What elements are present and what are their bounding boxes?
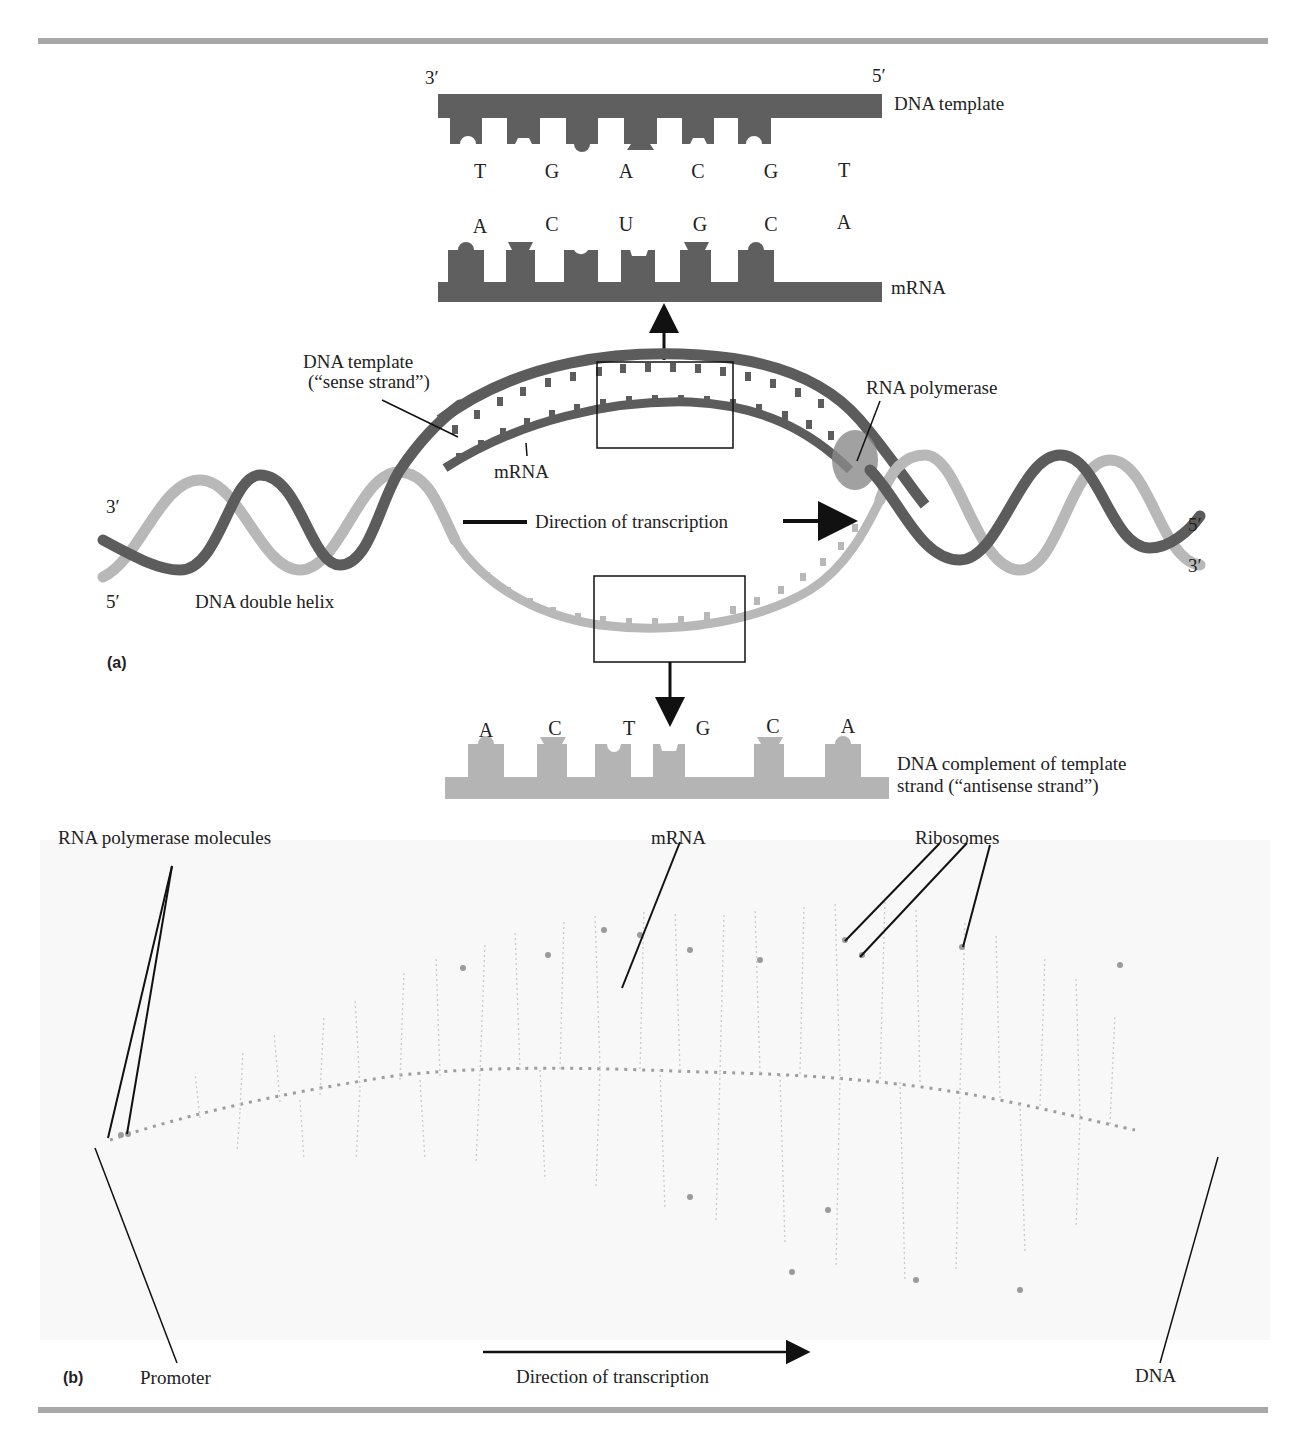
- ribosomes-label: Ribosomes: [915, 828, 999, 847]
- direction-label-b: Direction of transcription: [516, 1367, 709, 1386]
- mrna-base-3: U: [611, 214, 641, 234]
- direction-label-a: Direction of transcription: [535, 512, 728, 531]
- template-base-2: G: [537, 161, 567, 181]
- mrna-base-5: C: [756, 214, 786, 234]
- mrna-strand: [438, 242, 882, 302]
- mrna-base-1: A: [465, 216, 495, 236]
- panel-a-tag: (a): [107, 654, 127, 672]
- antisense-base-2: C: [540, 718, 570, 738]
- antisense-label-2: strand (“antisense strand”): [897, 776, 1099, 795]
- mrna-label-b: mRNA: [651, 828, 706, 847]
- helix-left-dark: [103, 405, 460, 570]
- antisense-base-3: T: [614, 718, 644, 738]
- dna-template-label: DNA template: [894, 94, 1004, 113]
- rna-polymerase-label: RNA polymerase: [866, 378, 997, 397]
- helix-label: DNA double helix: [195, 592, 334, 611]
- mrna-bubble-label: mRNA: [494, 462, 549, 481]
- template-ticks: [452, 363, 824, 434]
- template-base-4: C: [683, 161, 713, 181]
- leader-mrna: [526, 443, 527, 456]
- helix-right-5prime: 5′: [1188, 515, 1202, 534]
- template-bubble-label-1: DNA template: [303, 352, 413, 371]
- template-bubble-label-2: (“sense strand”): [308, 372, 430, 391]
- antisense-label-1: DNA complement of template: [897, 754, 1127, 773]
- panel-a-diagram: [0, 0, 1306, 1448]
- antisense-base-5: C: [758, 716, 788, 736]
- mrna-label: mRNA: [891, 278, 946, 297]
- dna-template-strand: [438, 94, 882, 152]
- template-base-1: T: [465, 161, 495, 181]
- top-strand-3prime: 3′: [425, 68, 439, 87]
- panel-b-tag: (b): [63, 1369, 83, 1387]
- mrna-base-6: A: [829, 212, 859, 232]
- mrna-base-4: G: [685, 214, 715, 234]
- helix-left-5prime: 5′: [106, 592, 120, 611]
- antisense-ticks: [466, 524, 858, 626]
- antisense-base-1: A: [471, 720, 501, 740]
- electron-micrograph: [40, 840, 1270, 1340]
- antisense-base-4: G: [688, 718, 718, 738]
- rna-polymerase-shape: [832, 430, 878, 490]
- polymerase-molecules-label: RNA polymerase molecules: [58, 828, 271, 847]
- dna-label-b: DNA: [1135, 1366, 1176, 1385]
- antisense-base-6: A: [833, 716, 863, 736]
- helix-left-3prime: 3′: [106, 497, 120, 516]
- helix-right-3prime: 3′: [1188, 556, 1202, 575]
- promoter-label: Promoter: [140, 1368, 211, 1387]
- template-base-6: T: [829, 160, 859, 180]
- template-base-5: G: [756, 161, 786, 181]
- top-strand-5prime: 5′: [872, 66, 886, 85]
- mrna-base-2: C: [537, 214, 567, 234]
- template-base-3: A: [611, 161, 641, 181]
- antisense-strand: [445, 736, 889, 799]
